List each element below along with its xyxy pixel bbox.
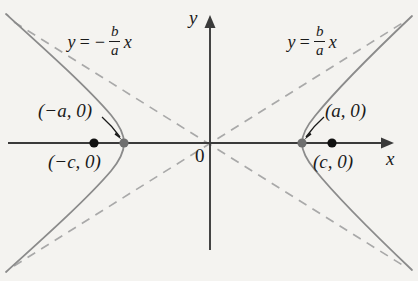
y-axis-label: y: [189, 8, 197, 27]
focus-label-right: (c, 0): [313, 152, 353, 171]
vertex-label-left: (−a, 0): [38, 101, 92, 120]
y-axis-arrowhead: [205, 15, 216, 28]
asymptote-right-trailing: x: [329, 33, 337, 51]
asymptote-right-denominator: a: [315, 43, 325, 59]
x-axis-arrowhead: [381, 138, 394, 149]
hyperbola-figure: y x 0 y = − b a x y = b a x (−a, 0) (−c,…: [0, 0, 418, 281]
focus-label-left: (−c, 0): [48, 152, 101, 171]
leader-arrow-left-vertex: [102, 117, 120, 137]
vertex-marker-left: [119, 138, 128, 147]
asymptote-right-variable: y: [288, 33, 296, 51]
asymptote-equation-right: y = b a x: [286, 25, 338, 60]
asymptote-right-numerator: b: [315, 24, 325, 40]
origin-label: 0: [195, 146, 205, 165]
asymptote-right-fraction: b a: [314, 24, 325, 59]
vertex-label-right: (a, 0): [325, 101, 366, 120]
x-axis-label: x: [386, 149, 394, 168]
hyperbola-plot-canvas: [0, 0, 418, 281]
asymptote-left-denominator: a: [110, 43, 120, 59]
asymptote-left-sign: −: [94, 33, 106, 51]
asymptote-left-numerator: b: [110, 24, 120, 40]
asymptote-equation-left: y = − b a x: [66, 25, 133, 60]
vertex-marker-right: [297, 138, 306, 147]
focus-marker-left: [89, 138, 98, 147]
asymptote-right-equals: =: [299, 33, 311, 51]
asymptote-left-variable: y: [68, 33, 76, 51]
leader-arrow-right-vertex: [306, 117, 324, 137]
asymptote-left-trailing: x: [124, 33, 132, 51]
asymptote-left-equals: =: [79, 33, 91, 51]
asymptote-left-fraction: b a: [109, 24, 120, 59]
leader-arrows-group: [102, 117, 324, 140]
focus-marker-right: [327, 138, 336, 147]
